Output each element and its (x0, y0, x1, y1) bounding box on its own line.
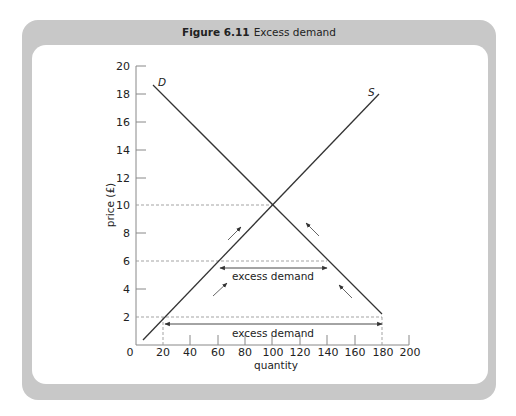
svg-text:20: 20 (116, 60, 130, 73)
svg-text:20: 20 (156, 346, 170, 359)
svg-text:0: 0 (127, 346, 134, 359)
supply-direction-arrow-upper (228, 227, 241, 240)
supply-direction-arrow-lower (213, 283, 227, 296)
supply-curve (143, 94, 379, 340)
svg-text:140: 140 (318, 346, 339, 359)
svg-text:12: 12 (116, 172, 130, 185)
svg-text:180: 180 (373, 346, 394, 359)
y-tick-labels: 20 18 16 14 12 10 8 6 4 2 (116, 60, 130, 324)
svg-text:160: 160 (345, 346, 366, 359)
svg-text:120: 120 (290, 346, 311, 359)
excess-demand-lower-label: excess demand (232, 327, 314, 339)
svg-text:100: 100 (263, 346, 284, 359)
svg-text:18: 18 (116, 88, 130, 101)
svg-text:40: 40 (183, 346, 197, 359)
svg-text:10: 10 (116, 199, 130, 212)
svg-text:80: 80 (238, 346, 252, 359)
demand-label: D (158, 76, 166, 88)
supply-label: S (368, 86, 375, 98)
x-axis-title: quantity (254, 359, 298, 371)
svg-text:8: 8 (123, 227, 130, 240)
excess-demand-chart: D S excess demand excess demand 20 18 16… (0, 0, 516, 416)
svg-text:14: 14 (116, 144, 130, 157)
x-tick-labels: 0 20 40 60 80 100 120 140 160 180 200 (127, 346, 421, 359)
svg-text:200: 200 (400, 346, 421, 359)
svg-text:16: 16 (116, 116, 130, 129)
svg-text:6: 6 (123, 255, 130, 268)
excess-demand-upper-label: excess demand (232, 270, 314, 282)
svg-text:60: 60 (211, 346, 225, 359)
svg-text:2: 2 (123, 311, 130, 324)
svg-text:4: 4 (123, 283, 130, 296)
demand-direction-arrow-upper (306, 223, 319, 236)
demand-direction-arrow-lower (339, 285, 352, 298)
y-axis-title: price (£) (104, 183, 116, 227)
